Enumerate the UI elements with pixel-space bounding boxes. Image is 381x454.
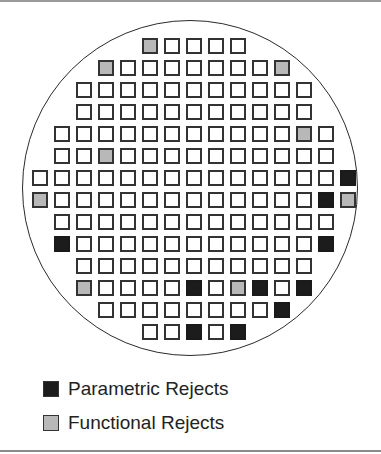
die-good (76, 236, 92, 252)
die-good (252, 170, 268, 186)
die-good (186, 38, 202, 54)
die-good (98, 280, 114, 296)
die-good (296, 192, 312, 208)
die-good (318, 170, 334, 186)
die-good (142, 214, 158, 230)
die-functional-reject (98, 148, 114, 164)
die-good (274, 280, 290, 296)
die-good (142, 104, 158, 120)
die-good (274, 214, 290, 230)
die-good (208, 170, 224, 186)
die-good (164, 148, 180, 164)
die-good (274, 104, 290, 120)
die-good (164, 126, 180, 142)
die-good (186, 236, 202, 252)
die-good (208, 324, 224, 340)
die-good (76, 148, 92, 164)
die-good (186, 214, 202, 230)
die-parametric-reject (274, 302, 290, 318)
die-good (208, 60, 224, 76)
die-good (76, 82, 92, 98)
die-good (120, 104, 136, 120)
die-good (76, 192, 92, 208)
die-good (208, 82, 224, 98)
die-good (208, 236, 224, 252)
legend-item-parametric: Parametric Rejects (43, 380, 229, 398)
die-good (164, 236, 180, 252)
die-good (54, 148, 70, 164)
die-good (252, 192, 268, 208)
die-good (296, 148, 312, 164)
die-functional-reject (76, 280, 92, 296)
die-good (186, 126, 202, 142)
die-good (142, 60, 158, 76)
die-good (230, 104, 246, 120)
die-good (76, 126, 92, 142)
die-good (208, 214, 224, 230)
die-good (318, 214, 334, 230)
die-good (296, 236, 312, 252)
die-good (296, 170, 312, 186)
die-good (252, 60, 268, 76)
die-good (208, 302, 224, 318)
die-good (54, 170, 70, 186)
die-parametric-reject (340, 170, 356, 186)
die-good (274, 126, 290, 142)
legend-label-functional: Functional Rejects (68, 412, 224, 434)
die-good (164, 170, 180, 186)
die-good (76, 104, 92, 120)
legend-item-functional: Functional Rejects (43, 414, 224, 432)
die-good (252, 126, 268, 142)
die-parametric-reject (252, 280, 268, 296)
die-good (120, 302, 136, 318)
die-good (98, 104, 114, 120)
top-rule (0, 0, 381, 2)
die-good (98, 170, 114, 186)
die-good (120, 148, 136, 164)
die-good (274, 170, 290, 186)
die-good (252, 258, 268, 274)
die-good (142, 280, 158, 296)
die-good (98, 258, 114, 274)
die-parametric-reject (186, 324, 202, 340)
die-good (230, 82, 246, 98)
bottom-rule (0, 450, 381, 452)
die-parametric-reject (318, 236, 334, 252)
legend-label-parametric: Parametric Rejects (68, 378, 229, 400)
die-good (164, 280, 180, 296)
die-good (230, 302, 246, 318)
die-good (274, 148, 290, 164)
die-good (296, 258, 312, 274)
parametric-swatch-icon (43, 381, 59, 397)
die-parametric-reject (230, 324, 246, 340)
die-functional-reject (142, 38, 158, 54)
die-functional-reject (98, 60, 114, 76)
die-good (98, 82, 114, 98)
die-good (98, 126, 114, 142)
die-good (98, 192, 114, 208)
die-good (252, 104, 268, 120)
die-good (208, 38, 224, 54)
die-functional-reject (274, 60, 290, 76)
die-good (296, 82, 312, 98)
die-good (208, 258, 224, 274)
die-functional-reject (32, 192, 48, 208)
die-good (164, 82, 180, 98)
die-good (296, 104, 312, 120)
die-good (164, 324, 180, 340)
die-good (98, 236, 114, 252)
die-good (230, 60, 246, 76)
die-good (252, 148, 268, 164)
die-good (120, 192, 136, 208)
die-good (142, 170, 158, 186)
die-good (164, 192, 180, 208)
die-good (98, 214, 114, 230)
die-good (296, 214, 312, 230)
die-good (142, 302, 158, 318)
die-good (252, 236, 268, 252)
die-parametric-reject (54, 236, 70, 252)
die-good (54, 126, 70, 142)
die-good (54, 192, 70, 208)
die-good (54, 214, 70, 230)
die-good (164, 258, 180, 274)
